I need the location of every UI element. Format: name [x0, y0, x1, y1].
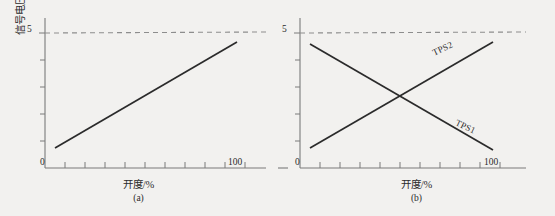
x-axis-title-a: 开度/%	[0, 176, 277, 191]
x-ticks-b	[320, 162, 500, 168]
y-ticks-b	[294, 33, 300, 141]
y-tick-label-5-a: 5	[27, 24, 32, 34]
chart-panel-a: 信号电压/V 5 0 100 开度/% (a)	[0, 0, 277, 216]
panel-caption-a: (a)	[0, 193, 277, 203]
series-line-tps1	[310, 44, 493, 150]
x-tick-label-0-a: 0	[40, 157, 45, 167]
series-line-tps-a	[55, 42, 237, 148]
x-ticks-a	[65, 162, 245, 168]
x-axis-title-b: 开度/%	[278, 176, 555, 191]
y-axis-title-a: 信号电压/V	[14, 0, 28, 50]
x-tick-label-100-b: 100	[484, 157, 498, 167]
reference-line-5v-a	[45, 32, 266, 33]
figure-container: 信号电压/V 5 0 100 开度/% (a)	[0, 0, 555, 216]
y-tick-label-5-b: 5	[282, 24, 287, 34]
panel-caption-b: (b)	[278, 193, 555, 203]
x-tick-label-100-a: 100	[228, 157, 242, 167]
y-ticks-a	[39, 33, 45, 141]
chart-panel-b: 信号电压/V 5 0 100 TPS2 TPS1 开度/% (b)	[278, 0, 555, 216]
reference-line-5v-b	[300, 32, 526, 33]
x-tick-label-0-b: 0	[295, 157, 300, 167]
